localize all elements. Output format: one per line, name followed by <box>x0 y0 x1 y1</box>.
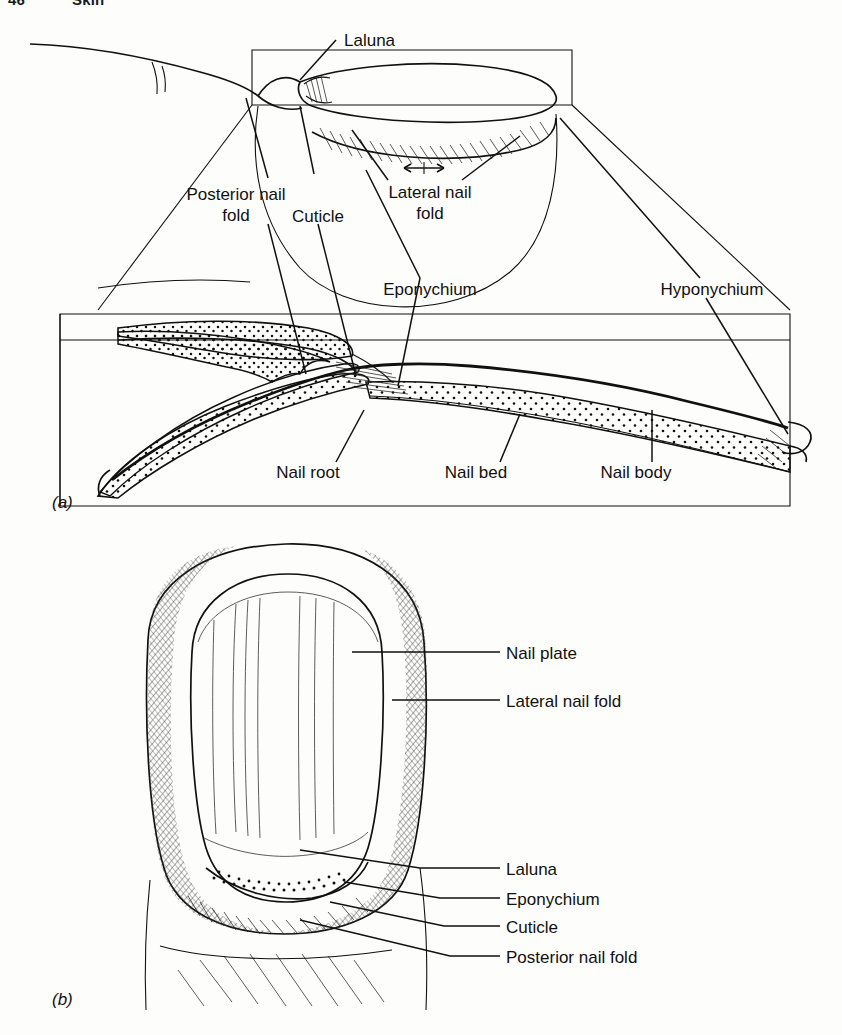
label-nail-bed: Nail bed <box>445 463 507 482</box>
label-laluna-a: Laluna <box>344 31 396 50</box>
label-posterior-nail-fold-b: Posterior nail fold <box>506 948 637 967</box>
panel-b: Nail plate Lateral nail fold Laluna Epon… <box>0 520 842 1035</box>
panel-a-marker: (a) <box>52 493 73 513</box>
label-eponychium-a: Eponychium <box>383 280 477 299</box>
label-lateral-nail-fold-b: Lateral nail fold <box>506 692 621 711</box>
label-posterior-nail-fold-a-line2: fold <box>222 206 249 225</box>
label-cuticle-a: Cuticle <box>292 207 344 226</box>
label-lateral-nail-fold-a-line1: Lateral nail <box>388 183 471 202</box>
label-laluna-b: Laluna <box>506 860 558 879</box>
label-nail-root: Nail root <box>276 463 340 482</box>
label-cuticle-b: Cuticle <box>506 918 558 937</box>
label-nail-body: Nail body <box>601 463 672 482</box>
label-eponychium-b: Eponychium <box>506 890 600 909</box>
label-hyponychium-a: Hyponychium <box>661 280 764 299</box>
panel-a: Laluna Posterior nail fold Cuticle Later… <box>0 10 842 520</box>
label-lateral-nail-fold-a-line2: fold <box>416 204 443 223</box>
figure-page: 46 Skin <box>0 0 842 1035</box>
panel-b-marker: (b) <box>52 990 73 1010</box>
page-number: 46 <box>8 0 25 8</box>
label-nail-plate: Nail plate <box>506 644 577 663</box>
label-posterior-nail-fold-a-line1: Posterior nail <box>186 185 285 204</box>
section-title: Skin <box>72 0 104 8</box>
